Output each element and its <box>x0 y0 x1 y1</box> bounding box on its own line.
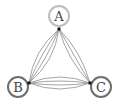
edge-A-B <box>29 29 59 83</box>
node-C: C <box>89 77 112 97</box>
edge-B-C <box>29 83 90 85</box>
edge-A-C <box>59 29 90 83</box>
edge-A-B <box>29 29 59 83</box>
edge-bundles <box>29 29 90 89</box>
node-C-port <box>89 82 92 85</box>
multigraph-diagram: ABC <box>0 0 120 108</box>
node-A-label: A <box>53 9 64 24</box>
edge-B-C <box>29 81 90 83</box>
node-B: B <box>8 77 31 97</box>
node-B-port <box>28 82 31 85</box>
node-A-port <box>58 28 61 31</box>
node-B-label: B <box>13 80 23 95</box>
node-A: A <box>49 6 69 31</box>
nodes: ABC <box>8 6 111 97</box>
edge-A-B <box>29 29 59 83</box>
node-C-label: C <box>96 80 106 95</box>
edge-A-B <box>29 29 59 83</box>
